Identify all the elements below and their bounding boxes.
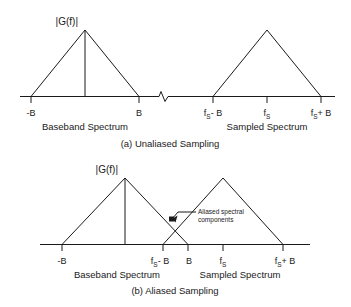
panel-b-label-minus-b: -B [58, 256, 67, 266]
panel-a-label-fs: fS [264, 108, 272, 120]
panel-b-label-fs-plus-b: fS+ B [275, 256, 296, 268]
panel-b-label-fs-minus-b: fS- B [151, 256, 169, 268]
panel-a-sampled-spectrum-label: Sampled Spectrum [227, 121, 308, 132]
panel-b-label-fs-minus-b-rest: - B [158, 256, 170, 266]
panel-b-label-fs: fS [220, 256, 228, 268]
panel-a-label-fs-minus-b: fS- B [204, 108, 222, 120]
panel-b: |G(f)| Aliased spectral components -B fS… [40, 164, 310, 296]
panel-b-annotation-line1: Aliased spectral [198, 208, 244, 216]
panel-b-label-b: B [186, 256, 192, 266]
panel-a-axis-break-icon [156, 92, 172, 102]
panel-b-amplitude-label: |G(f)| [96, 164, 118, 175]
panel-b-caption: (b) Aliased Sampling [131, 285, 218, 296]
panel-b-baseband-spectrum-label: Baseband Spectrum [74, 269, 160, 280]
panel-a-baseband-spectrum-label: Baseband Spectrum [42, 121, 128, 132]
panel-a-label-b: B [136, 108, 142, 118]
panel-a-label-fs-plus-b: fS+ B [311, 108, 332, 120]
sampling-spectra-diagram: |G(f)| -B B fS- B fS fS+ B Baseband Spec… [0, 0, 351, 307]
panel-a-amplitude-label: |G(f)| [56, 16, 78, 27]
panel-b-label-fs-sub: S [222, 261, 227, 268]
panel-a-label-fs-plus-b-rest: + B [318, 108, 332, 118]
panel-a-label-fs-minus-b-rest: - B [211, 108, 223, 118]
figure-root: |G(f)| -B B fS- B fS fS+ B Baseband Spec… [0, 0, 351, 307]
panel-a-sampled-triangle [213, 30, 321, 97]
panel-b-annotation-target-marker [169, 217, 174, 222]
panel-a-label-minus-b: -B [27, 108, 36, 118]
panel-a-label-fs-sub: S [266, 113, 271, 120]
panel-a-caption: (a) Unaliased Sampling [121, 138, 220, 149]
panel-a: |G(f)| -B B fS- B fS fS+ B Baseband Spec… [20, 16, 335, 149]
panel-b-annotation-line2: components [198, 216, 234, 224]
panel-b-label-fs-plus-b-rest: + B [282, 256, 296, 266]
panel-b-sampled-spectrum-label: Sampled Spectrum [200, 269, 281, 280]
